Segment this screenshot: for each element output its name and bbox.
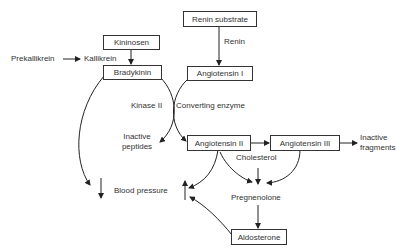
label-converting-enzyme: Converting enzyme bbox=[176, 101, 245, 111]
node-bradykinin: Bradykinin bbox=[103, 65, 162, 80]
label-inactive-fragments: Inactive fragments bbox=[360, 133, 396, 153]
label-inactive-peptides: Inactive peptides bbox=[118, 132, 156, 152]
label-renin: Renin bbox=[224, 37, 245, 47]
arrow-aldo-bp bbox=[190, 197, 232, 235]
label-inactive-fragments-line2: fragments bbox=[360, 143, 396, 153]
pathway-diagram: Renin substrate Angiotensin I Kininosen … bbox=[0, 0, 407, 248]
node-kininosen: Kininosen bbox=[103, 35, 160, 50]
node-aldosterone: Aldosterone bbox=[231, 229, 287, 245]
node-angiotensin-3: Angiotensin III bbox=[270, 135, 340, 151]
node-angiotensin-2: Angiotensin II bbox=[187, 135, 251, 151]
label-cholesterol: Cholesterol bbox=[236, 153, 276, 163]
label-prekallikrein: Prekallikrein bbox=[11, 54, 55, 64]
node-angiotensin-1: Angiotensin I bbox=[187, 66, 253, 81]
label-kallikrein: Kallikrein bbox=[84, 54, 116, 64]
label-pregnenolone: Pregnenolone bbox=[231, 193, 281, 203]
label-blood-pressure: Blood pressure bbox=[114, 186, 168, 196]
label-inactive-peptides-line2: peptides bbox=[118, 142, 156, 152]
label-kinase-2: Kinase II bbox=[131, 101, 162, 111]
arrow-bradykinin-bp bbox=[79, 76, 104, 185]
arrow-ang2-bp bbox=[189, 150, 218, 188]
node-renin-substrate: Renin substrate bbox=[183, 11, 257, 27]
label-inactive-peptides-line1: Inactive bbox=[118, 132, 156, 142]
connector-layer bbox=[0, 0, 407, 248]
label-inactive-fragments-line1: Inactive bbox=[360, 133, 396, 143]
